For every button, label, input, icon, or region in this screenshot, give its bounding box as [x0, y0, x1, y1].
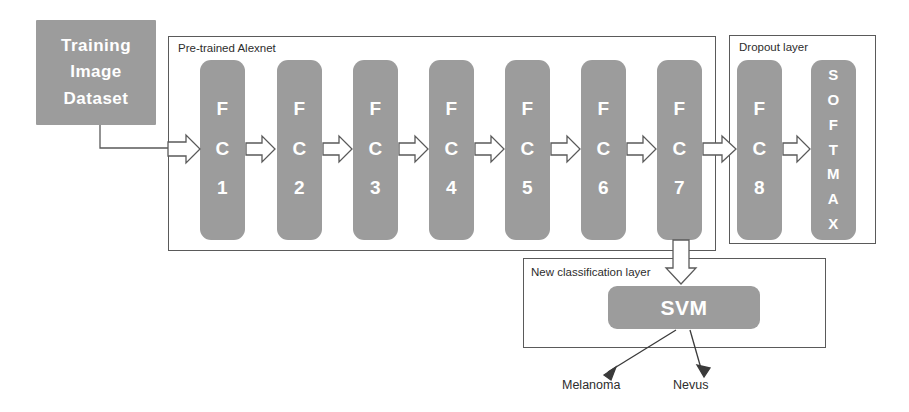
fc6-char-0: F: [597, 99, 609, 118]
fc-block-fc4: F C 4: [429, 60, 474, 240]
softmax-block: S O F T M A X: [811, 60, 856, 240]
softmax-char-3: T: [829, 138, 839, 163]
fc5-char-1: C: [520, 139, 534, 158]
fc-block-fc5: F C 5: [505, 60, 550, 240]
nevus-arrowhead-icon: [697, 365, 710, 377]
dataset-line-3: Dataset: [64, 86, 129, 112]
svm-block: SVM: [608, 286, 760, 329]
pre-trained-alexnet-label: Pre-trained Alexnet: [178, 42, 276, 54]
softmax-char-1: O: [827, 88, 839, 113]
softmax-char-6: X: [828, 212, 839, 237]
fc1-char-1: C: [215, 139, 229, 158]
fc3-char-2: 3: [370, 178, 381, 197]
fc5-char-0: F: [521, 99, 533, 118]
fc7-char-0: F: [673, 99, 685, 118]
fc-block-fc6: F C 6: [581, 60, 626, 240]
dataset-line-1: Training: [61, 33, 131, 59]
fc1-char-0: F: [216, 99, 228, 118]
fc-block-fc2: F C 2: [277, 60, 322, 240]
output-label-nevus: Nevus: [673, 378, 708, 392]
fc5-char-2: 5: [522, 178, 533, 197]
softmax-char-5: A: [828, 187, 839, 212]
fc-block-fc7: F C 7: [657, 60, 702, 240]
new-classification-layer-label: New classification layer: [531, 266, 651, 278]
fc4-char-1: C: [444, 139, 458, 158]
fc-block-fc3: F C 3: [353, 60, 398, 240]
fc8-char-1: C: [752, 139, 766, 158]
fc6-char-1: C: [596, 139, 610, 158]
fc-block-fc8: F C 8: [737, 60, 782, 240]
fc2-char-0: F: [293, 99, 305, 118]
fc8-char-0: F: [753, 99, 765, 118]
softmax-char-4: M: [827, 162, 840, 187]
fc3-char-1: C: [368, 139, 382, 158]
diagram-canvas: Training Image Dataset Pre-trained Alexn…: [0, 0, 909, 412]
fc4-char-2: 4: [446, 178, 457, 197]
output-label-melanoma: Melanoma: [562, 378, 620, 392]
fc6-char-2: 6: [598, 178, 609, 197]
softmax-char-2: F: [829, 113, 839, 138]
fc7-char-2: 7: [674, 178, 685, 197]
softmax-char-0: S: [828, 63, 839, 88]
fc2-char-2: 2: [294, 178, 305, 197]
fc8-char-2: 8: [754, 178, 765, 197]
fc2-char-1: C: [292, 139, 306, 158]
training-image-dataset-block: Training Image Dataset: [36, 20, 156, 125]
fc-block-fc1: F C 1: [200, 60, 245, 240]
fc3-char-0: F: [369, 99, 381, 118]
dataset-line-2: Image: [70, 59, 122, 85]
svm-label: SVM: [660, 296, 707, 320]
fc7-char-1: C: [672, 139, 686, 158]
fc1-char-2: 1: [217, 178, 228, 197]
dropout-layer-label: Dropout layer: [739, 41, 808, 53]
fc4-char-0: F: [445, 99, 457, 118]
